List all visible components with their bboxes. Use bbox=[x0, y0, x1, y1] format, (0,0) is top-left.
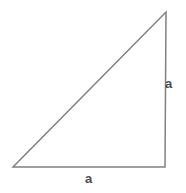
bottom-leg-length-label: a bbox=[85, 172, 92, 185]
triangle-shape bbox=[0, 0, 186, 193]
right-leg-length-label: a bbox=[165, 77, 172, 90]
right-triangle-figure: a a bbox=[0, 0, 186, 193]
triangle-outline bbox=[13, 12, 166, 167]
